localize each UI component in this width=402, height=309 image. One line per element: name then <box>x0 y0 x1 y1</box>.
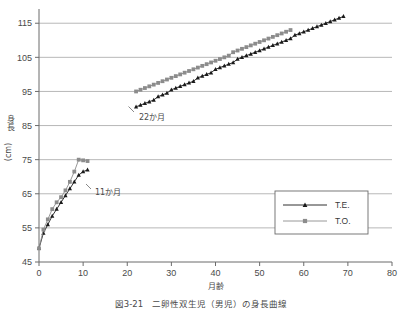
data-point-to-m48 <box>249 44 253 48</box>
data-point-to-m7 <box>68 180 72 184</box>
y-tick-label-95: 95 <box>22 87 32 97</box>
data-point-to-m1 <box>42 228 46 232</box>
legend-label-te: T.E. <box>335 200 350 210</box>
data-point-to-m8 <box>72 170 76 174</box>
y-axis-ticks: 455565758595105115 <box>17 18 39 267</box>
x-tick-label-30: 30 <box>166 268 176 278</box>
y-tick-label-105: 105 <box>17 53 32 63</box>
y-tick-label-65: 65 <box>22 189 32 199</box>
data-point-to-m5 <box>59 195 63 199</box>
data-point-to-m54 <box>275 33 279 37</box>
series-te-line <box>39 170 88 248</box>
data-point-to-m50 <box>258 40 262 44</box>
data-point-to-m29 <box>165 78 169 82</box>
axis-titles: 月齢身長(cm) <box>4 114 224 291</box>
x-tick-label-60: 60 <box>299 268 309 278</box>
data-point-to-m42 <box>222 55 226 59</box>
data-point-to-m52 <box>267 37 271 41</box>
x-tick-label-10: 10 <box>78 268 88 278</box>
data-point-to-m31 <box>174 74 178 78</box>
x-tick-label-0: 0 <box>36 268 41 278</box>
data-point-to-m56 <box>284 30 288 34</box>
data-point-to-m47 <box>244 45 248 49</box>
legend-label-to: T.O. <box>335 216 351 226</box>
data-point-to-m4 <box>55 200 59 204</box>
growth-chart-figure: 01020304050607080 455565758595105115 22か… <box>0 0 402 309</box>
y-tick-label-55: 55 <box>22 223 32 233</box>
x-tick-label-50: 50 <box>255 268 265 278</box>
x-tick-label-40: 40 <box>210 268 220 278</box>
annotation-11-months: 11か月 <box>95 188 121 197</box>
data-point-to-m27 <box>156 81 160 85</box>
annotation-22-months: 22か月 <box>139 113 165 122</box>
data-point-to-m44 <box>231 50 235 54</box>
data-point-to-m57 <box>289 28 293 32</box>
x-axis-ticks: 01020304050607080 <box>36 262 397 278</box>
data-point-to-m28 <box>161 79 165 83</box>
series-to <box>37 28 292 250</box>
data-point-to-m53 <box>271 35 275 39</box>
y-tick-label-85: 85 <box>22 121 32 131</box>
data-point-to-m51 <box>262 38 266 42</box>
data-point-to-m26 <box>152 83 156 87</box>
growth-chart-svg: 01020304050607080 455565758595105115 22か… <box>0 0 402 299</box>
data-point-to-m41 <box>218 57 222 61</box>
annotation-11-months-leader <box>86 184 91 189</box>
y-axis-unit: (cm) <box>4 143 13 161</box>
data-point-to-m0 <box>37 246 41 250</box>
data-point-to-m30 <box>169 76 173 80</box>
data-point-to-m45 <box>236 49 240 53</box>
data-point-to-m6 <box>64 188 68 192</box>
y-tick-label-45: 45 <box>22 257 32 267</box>
series-to-line <box>39 160 88 249</box>
y-tick-label-115: 115 <box>18 18 32 28</box>
data-point-to-m43 <box>227 54 231 58</box>
data-point-to-m34 <box>187 69 191 73</box>
data-point-to-m35 <box>192 67 196 71</box>
data-point-to-m2 <box>46 217 50 221</box>
data-point-to-m40 <box>214 59 218 63</box>
chart-annotations: 22か月11か月 <box>86 107 165 198</box>
x-tick-label-20: 20 <box>122 268 132 278</box>
x-tick-label-70: 70 <box>343 268 353 278</box>
data-point-te-m69 <box>341 14 345 18</box>
data-point-to-m9 <box>77 158 81 162</box>
data-point-to-m33 <box>183 71 187 75</box>
data-point-to-m22 <box>134 90 138 94</box>
data-point-to-m11 <box>86 159 90 163</box>
data-point-to-m23 <box>139 88 143 92</box>
data-point-to-m3 <box>50 207 54 211</box>
data-point-to-m49 <box>253 42 257 46</box>
x-tick-label-80: 80 <box>387 268 397 278</box>
x-axis-title: 月齢 <box>208 281 224 291</box>
data-point-to-m10 <box>81 158 85 162</box>
data-point-to-m24 <box>143 86 147 90</box>
data-point-to-m32 <box>178 73 182 77</box>
chart-legend: T.E.T.O. <box>275 191 368 234</box>
data-point-to-m38 <box>205 62 209 66</box>
y-tick-label-75: 75 <box>22 155 32 165</box>
data-point-to-m46 <box>240 47 244 51</box>
legend-marker-square <box>303 219 307 223</box>
data-point-to-m37 <box>200 64 204 68</box>
data-point-to-m55 <box>280 32 284 36</box>
y-axis-title: 身長 <box>7 114 15 132</box>
data-point-to-m25 <box>147 84 151 88</box>
data-point-to-m36 <box>196 66 200 70</box>
legend-box <box>275 191 368 234</box>
data-point-to-m39 <box>209 61 213 65</box>
annotation-22-months-leader <box>129 107 135 113</box>
data-point-te-m11 <box>85 168 89 172</box>
figure-caption: 図3-21 二卵性双生児（男児）の身長曲線 <box>0 299 402 309</box>
